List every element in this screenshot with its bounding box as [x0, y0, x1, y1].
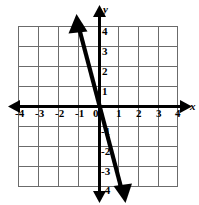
- x-tick-label-minus2: -2: [55, 107, 65, 119]
- y-tick-label-4: 4: [102, 25, 108, 37]
- x-axis-label: x: [189, 100, 196, 112]
- x-tick-label-minus1: -1: [75, 107, 84, 119]
- coordinate-graph-figure: -4 -3 -2 -1 1 2 3 4 4 3 2 1 -1 -2 -3 -4 …: [0, 0, 199, 205]
- y-tick-label-minus2: -2: [101, 145, 111, 157]
- line-upper-arrow-icon: [69, 14, 88, 34]
- graph-canvas: -4 -3 -2 -1 1 2 3 4 4 3 2 1 -1 -2 -3 -4 …: [0, 0, 199, 205]
- y-tick-label-2: 2: [102, 65, 108, 77]
- x-tick-label-3: 3: [156, 107, 162, 119]
- y-tick-label-minus1: -1: [101, 125, 110, 137]
- x-tick-label-minus3: -3: [35, 107, 45, 119]
- y-tick-label-minus4: -4: [101, 184, 111, 196]
- y-axis-label: y: [101, 3, 108, 15]
- y-tick-label-3: 3: [102, 45, 108, 57]
- x-tick-label-1: 1: [116, 107, 122, 119]
- x-tick-label-2: 2: [136, 107, 142, 119]
- x-tick-label-4: 4: [175, 107, 181, 119]
- y-tick-label-minus3: -3: [101, 165, 111, 177]
- x-tick-label-minus4: -4: [15, 107, 25, 119]
- origin-label: 0: [93, 107, 99, 119]
- line-lower-arrow-icon: [114, 184, 133, 204]
- y-tick-label-1: 1: [102, 85, 108, 97]
